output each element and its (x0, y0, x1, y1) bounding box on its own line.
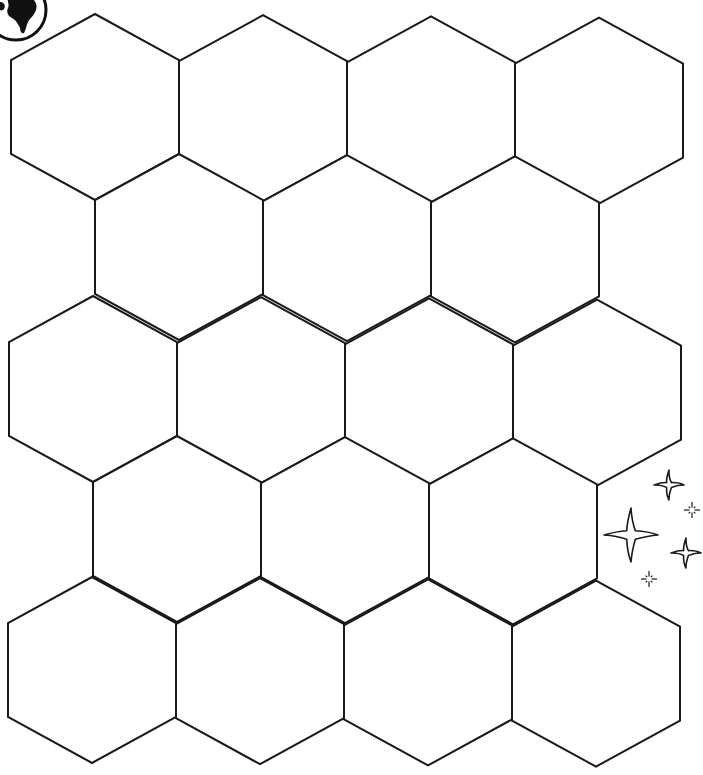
sparkle-tiny-icon (641, 571, 657, 587)
sparkle-medium-icon (654, 470, 684, 500)
sparkles-decoration (604, 470, 701, 587)
hexagon-grid (8, 14, 683, 767)
hexagon-grid-canvas (0, 0, 703, 775)
sparkle-large-icon (604, 508, 658, 562)
sparkle-medium-icon (671, 538, 701, 568)
sparkle-tiny-icon (684, 502, 700, 518)
globe-icon (0, 0, 46, 40)
